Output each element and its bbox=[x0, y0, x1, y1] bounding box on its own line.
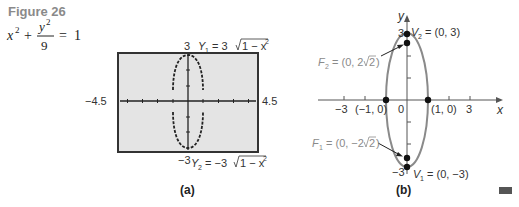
svg-text:1 − x: 1 − x bbox=[242, 40, 267, 52]
vertex-v2-point bbox=[404, 31, 410, 37]
svg-text:3: 3 bbox=[466, 103, 472, 115]
arrow-icon bbox=[396, 152, 403, 157]
label-right-intercept: (1, 0) bbox=[431, 103, 457, 115]
window-ymax: 3 bbox=[184, 40, 190, 52]
svg-text:−3: −3 bbox=[392, 166, 405, 178]
svg-text:2: 2 bbox=[369, 137, 375, 149]
svg-text:2: 2 bbox=[418, 33, 422, 40]
svg-text:2: 2 bbox=[265, 38, 269, 45]
window-xmax: 4.5 bbox=[262, 95, 277, 107]
tick-labels: −3 3 0 3 −3 (−1, 0) (1, 0) bbox=[335, 27, 472, 178]
window-ymin: −3 bbox=[178, 154, 191, 166]
eq-equals: = bbox=[59, 28, 67, 43]
vertex-v1-point bbox=[404, 164, 410, 170]
eq-x-exp: 2 bbox=[15, 25, 20, 35]
svg-text:3: 3 bbox=[398, 27, 404, 39]
y-axis-label: y bbox=[397, 9, 405, 23]
caption-a: (a) bbox=[180, 183, 195, 197]
focus-f1-point bbox=[404, 155, 410, 161]
panel-a: −4.5 4.5 3 −3 Y 1 = 3 1 − x 2 Y 2 = −3 1… bbox=[85, 38, 277, 197]
panel-b: y x −3 3 0 3 −3 (−1, 0) (1, 0) V 2 = (0,… bbox=[312, 9, 504, 197]
svg-text:= (0, −3): = (0, −3) bbox=[427, 168, 469, 180]
svg-text:2: 2 bbox=[369, 56, 375, 68]
y-axis-arrow-icon bbox=[404, 15, 410, 22]
figure-canvas: x 2 + y 2 9 = 1 bbox=[0, 0, 519, 207]
arrow-icon bbox=[397, 45, 404, 50]
svg-text:−3: −3 bbox=[335, 103, 348, 115]
svg-text:): ) bbox=[376, 56, 380, 68]
eq-plus: + bbox=[24, 28, 32, 43]
focus-f2-point bbox=[404, 40, 410, 46]
y2-label: Y 2 = −3 1 − x 2 bbox=[191, 155, 267, 171]
svg-text:2: 2 bbox=[263, 155, 267, 162]
svg-text:2: 2 bbox=[198, 164, 202, 171]
end-marker bbox=[499, 187, 512, 194]
v1-label: V 1 = (0, −3) bbox=[413, 168, 469, 182]
equation: x 2 + y 2 9 = 1 bbox=[6, 17, 81, 53]
eq-y-exp: 2 bbox=[46, 17, 51, 27]
svg-text:1: 1 bbox=[205, 47, 209, 54]
svg-text:= −3: = −3 bbox=[205, 157, 227, 169]
svg-text:1 − x: 1 − x bbox=[240, 157, 265, 169]
y1-label: Y 1 = 3 1 − x 2 bbox=[198, 38, 269, 54]
eq-denominator: 9 bbox=[41, 38, 48, 53]
eq-x: x bbox=[6, 28, 14, 43]
svg-text:= (0, 2: = (0, 2 bbox=[332, 56, 364, 68]
svg-text:= 3: = 3 bbox=[212, 40, 228, 52]
f2-label: F 2 = (0, 2 2 ) bbox=[318, 56, 380, 70]
f1-label: F 1 = (0, −2 2 ) bbox=[312, 137, 380, 151]
svg-text:1: 1 bbox=[420, 175, 424, 182]
eq-y: y bbox=[37, 19, 45, 34]
window-xmin: −4.5 bbox=[85, 95, 107, 107]
svg-text:= (0, −2: = (0, −2 bbox=[326, 137, 364, 149]
svg-text:): ) bbox=[376, 137, 380, 149]
x-axis-label: x bbox=[496, 103, 504, 117]
label-left-intercept: (−1, 0) bbox=[355, 103, 387, 115]
svg-text:2: 2 bbox=[325, 63, 329, 70]
v2-label: V 2 = (0, 3) bbox=[411, 26, 460, 40]
eq-rhs: 1 bbox=[74, 28, 81, 43]
svg-text:1: 1 bbox=[319, 144, 323, 151]
caption-b: (b) bbox=[396, 183, 411, 197]
svg-text:0: 0 bbox=[398, 103, 404, 115]
svg-text:= (0, 3): = (0, 3) bbox=[425, 26, 460, 38]
